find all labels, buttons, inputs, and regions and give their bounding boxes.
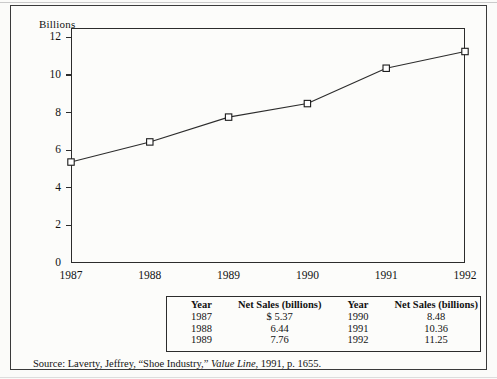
x-axis-tick-label: 1991 (363, 270, 409, 282)
y-axis-tick-label: 4 (35, 182, 61, 194)
table-cell-year-right: 1990 (323, 311, 392, 323)
table-header-row: Year Net Sales (billions) Year Net Sales… (167, 299, 480, 311)
data-point-marker (304, 100, 310, 106)
source-publication: Value Line (211, 358, 256, 369)
y-axis-tick-label: 10 (35, 69, 61, 81)
y-axis-tick-label: 6 (35, 144, 61, 156)
table-cell-year-left: 1989 (167, 334, 236, 346)
y-axis-tick-label: 12 (35, 31, 61, 43)
table-header-year-left: Year (167, 299, 236, 311)
table-cell-year-left: 1987 (167, 311, 236, 323)
x-axis-tick-label: 1988 (127, 270, 173, 282)
y-axis-tick-label: 8 (35, 107, 61, 119)
table-row: 1988 6.44 1991 10.36 (167, 323, 480, 335)
table-cell-sales-right: 11.25 (392, 334, 480, 346)
scan-artifact-bottom (0, 377, 497, 378)
table-body: 1987 $ 5.37 1990 8.48 1988 6.44 1991 10.… (167, 311, 480, 346)
data-point-marker (462, 48, 468, 54)
y-axis-tick-label: 0 (35, 257, 61, 269)
x-axis-tick-label: 1987 (48, 270, 94, 282)
table-cell-sales-left: 7.76 (236, 334, 324, 346)
source-label: Source: (33, 358, 65, 369)
table-cell-year-right: 1991 (323, 323, 392, 335)
net-sales-table: Year Net Sales (billions) Year Net Sales… (167, 299, 480, 346)
data-point-marker (68, 159, 74, 165)
source-author-title: Laverty, Jeffrey, “Shoe Industry,” (68, 358, 209, 369)
data-point-marker (383, 65, 389, 71)
scan-artifact-top (0, 2, 497, 3)
data-point-marker (225, 114, 231, 120)
table-row: 1989 7.76 1992 11.25 (167, 334, 480, 346)
table-cell-sales-right: 8.48 (392, 311, 480, 323)
table-cell-sales-left: 6.44 (236, 323, 324, 335)
data-point-marker (147, 139, 153, 145)
source-citation: Source: Laverty, Jeffrey, “Shoe Industry… (33, 358, 321, 369)
table-header-year-right: Year (323, 299, 392, 311)
line-chart-plot (71, 28, 465, 263)
source-page: , 1991, p. 1655. (256, 358, 322, 369)
x-axis-tick-label: 1989 (206, 270, 252, 282)
y-axis-title: Billions (39, 18, 75, 30)
x-axis-tick-label: 1990 (284, 270, 330, 282)
table-cell-year-right: 1992 (323, 334, 392, 346)
y-axis-tick-label: 2 (35, 219, 61, 231)
table-cell-sales-left: $ 5.37 (236, 311, 324, 323)
table-header: Year Net Sales (billions) Year Net Sales… (167, 299, 480, 311)
figure-page: Billions Year Net Sales (billions) Year … (0, 0, 497, 379)
x-axis-tick-label: 1992 (442, 270, 488, 282)
data-table: Year Net Sales (billions) Year Net Sales… (166, 296, 481, 352)
table-header-sales-left: Net Sales (billions) (236, 299, 324, 311)
table-cell-sales-right: 10.36 (392, 323, 480, 335)
table-cell-year-left: 1988 (167, 323, 236, 335)
table-row: 1987 $ 5.37 1990 8.48 (167, 311, 480, 323)
table-header-sales-right: Net Sales (billions) (392, 299, 480, 311)
series-line (71, 52, 465, 163)
